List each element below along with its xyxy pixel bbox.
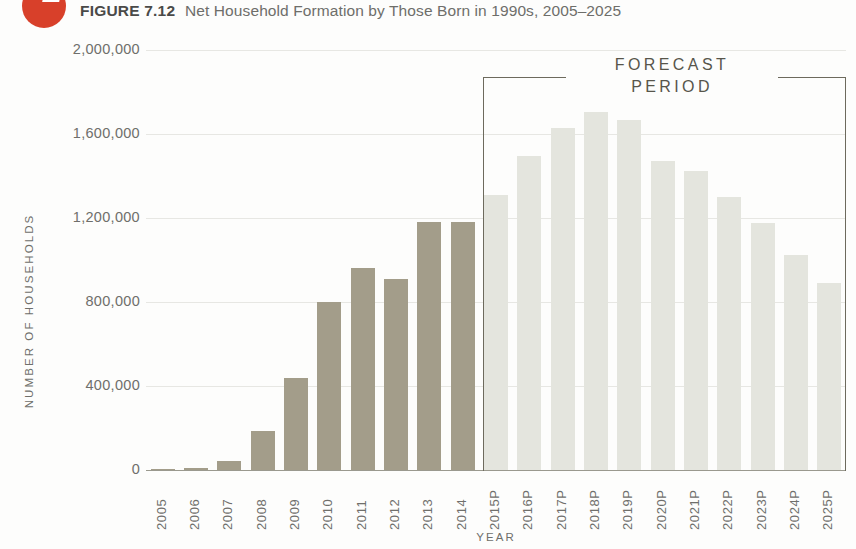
bar-2021P (684, 171, 708, 470)
figure-number-label: FIGURE 7.12 (80, 2, 175, 20)
bar-2010 (317, 302, 341, 470)
y-axis-tick-label: 800,000 (8, 293, 140, 309)
x-axis-tick-label: 2008 (254, 499, 269, 530)
bar-2012 (384, 279, 408, 470)
bar-2011 (351, 268, 375, 470)
x-axis-tick-label: 2005 (154, 499, 169, 530)
figure-container: FIGURE 7.12 Net Household Formation by T… (0, 0, 856, 549)
bar-2013 (417, 222, 441, 470)
x-axis-tick-label: 2024P (787, 489, 802, 530)
gridline (146, 50, 846, 51)
bar-2019P (617, 120, 641, 470)
bar-2022P (717, 197, 741, 470)
plot-area (146, 50, 846, 470)
x-axis-tick-label: 2009 (287, 499, 302, 530)
x-axis-tick-label: 2007 (220, 499, 235, 530)
y-axis-tick-label: 1,200,000 (8, 209, 140, 225)
red-circle-checkmark-icon (22, 0, 66, 28)
x-axis-tick-label: 2022P (720, 489, 735, 530)
figure-header: FIGURE 7.12 Net Household Formation by T… (0, 0, 856, 26)
bar-2023P (751, 223, 775, 470)
forecast-period-label: FORECAST PERIOD (566, 52, 778, 102)
y-axis-tick-label: 2,000,000 (8, 41, 140, 57)
logo-notch-b (42, 0, 61, 2)
gridline (146, 134, 846, 135)
x-axis-tick-label: 2018P (587, 489, 602, 530)
x-axis-line (146, 470, 846, 471)
y-axis-tick-label: 400,000 (8, 377, 140, 393)
x-axis-tick-label: 2017P (554, 489, 569, 530)
bar-2017P (551, 128, 575, 470)
y-axis-tick-label: 1,600,000 (8, 125, 140, 141)
x-axis-tick-label: 2006 (187, 499, 202, 530)
x-axis-tick-label: 2020P (654, 489, 669, 530)
x-axis-tick-label: 2025P (820, 489, 835, 530)
y-axis: NUMBER OF HOUSEHOLDS 0400,000800,0001,20… (0, 50, 140, 470)
figure-title: Net Household Formation by Those Born in… (185, 2, 621, 20)
x-axis-tick-label: 2013 (420, 499, 435, 530)
bar-2008 (251, 431, 275, 470)
bar-2007 (217, 461, 241, 470)
x-axis-tick-label: 2011 (354, 500, 369, 530)
bar-2018P (584, 112, 608, 470)
x-axis-tick-label: 2016P (520, 489, 535, 530)
bar-2020P (651, 161, 675, 470)
bar-2024P (784, 255, 808, 470)
x-axis-tick-label: 2014 (454, 499, 469, 530)
y-axis-tick-label: 0 (8, 461, 140, 477)
x-axis-label: YEAR (146, 531, 846, 543)
bar-2014 (451, 222, 475, 470)
bar-2015P (484, 195, 508, 470)
bar-2025P (817, 283, 841, 470)
x-axis-tick-label: 2021P (687, 489, 702, 530)
x-axis-tick-label: 2012 (387, 499, 402, 530)
x-axis-ticks: 2005200620072008200920102011201220132014… (146, 474, 846, 530)
bar-2016P (517, 156, 541, 470)
x-axis-tick-label: 2019P (620, 489, 635, 530)
x-axis-tick-label: 2023P (754, 489, 769, 530)
x-axis-tick-label: 2010 (320, 499, 335, 530)
x-axis-tick-label: 2015P (487, 489, 502, 530)
bar-2009 (284, 378, 308, 470)
